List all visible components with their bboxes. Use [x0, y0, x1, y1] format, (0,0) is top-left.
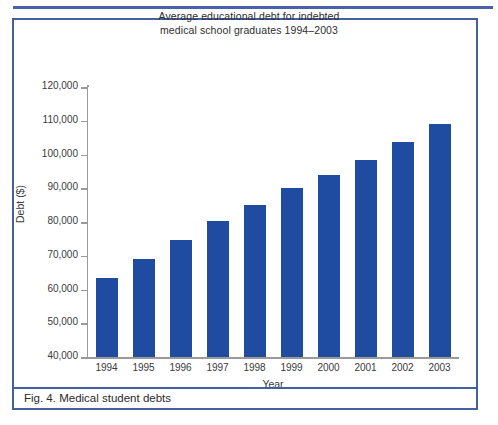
y-axis-tick-label: 110,000 [22, 114, 78, 125]
bar [170, 240, 192, 357]
y-axis-tick [81, 121, 88, 123]
chart-title: Average educational debt for indebted me… [0, 9, 498, 37]
bar [244, 205, 266, 357]
x-axis-tick-label: 1999 [272, 362, 312, 373]
x-axis-tick-label: 2003 [420, 362, 460, 373]
bar [281, 188, 303, 357]
figure-caption: Fig. 4. Medical student debts [24, 392, 171, 404]
x-axis-tick-label: 1997 [198, 362, 238, 373]
y-axis-tick [81, 188, 88, 190]
bar [392, 142, 414, 357]
y-axis-tick [81, 87, 88, 89]
y-axis-tick [81, 222, 88, 224]
chart-title-line2: medical school graduates 1994–2003 [0, 23, 498, 37]
y-axis-tick-label: 90,000 [22, 181, 78, 192]
y-axis-title: Debt ($) [14, 164, 26, 244]
y-axis-tick-label: 80,000 [22, 215, 78, 226]
x-axis-tick-label: 1998 [235, 362, 275, 373]
x-axis-tick-label: 1995 [124, 362, 164, 373]
plot-area [88, 87, 458, 357]
bar [96, 278, 118, 357]
y-axis-tick-label: 70,000 [22, 249, 78, 260]
bar [355, 160, 377, 357]
x-axis-tick-label: 1996 [161, 362, 201, 373]
x-axis-tick-label: 2000 [309, 362, 349, 373]
y-axis-tick-label: 120,000 [22, 80, 78, 91]
bar [429, 124, 451, 357]
caption-divider [12, 387, 478, 389]
y-axis-tick-label: 40,000 [22, 350, 78, 361]
y-axis-tick-label: 60,000 [22, 283, 78, 294]
x-axis-tick-label: 1994 [87, 362, 127, 373]
y-axis-tick [81, 155, 88, 157]
y-axis-tick-label: 50,000 [22, 316, 78, 327]
y-axis-tick [81, 357, 88, 359]
y-axis-tick [81, 323, 88, 325]
chart-title-line1: Average educational debt for indebted [0, 9, 498, 23]
x-axis-tick-label: 2002 [383, 362, 423, 373]
y-axis-tick [81, 290, 88, 292]
bar [207, 221, 229, 357]
x-axis-line [87, 357, 459, 359]
bar [133, 259, 155, 357]
x-axis-tick-label: 2001 [346, 362, 386, 373]
y-axis-tick [81, 256, 88, 258]
bar [318, 175, 340, 357]
y-axis-tick-label: 100,000 [22, 148, 78, 159]
